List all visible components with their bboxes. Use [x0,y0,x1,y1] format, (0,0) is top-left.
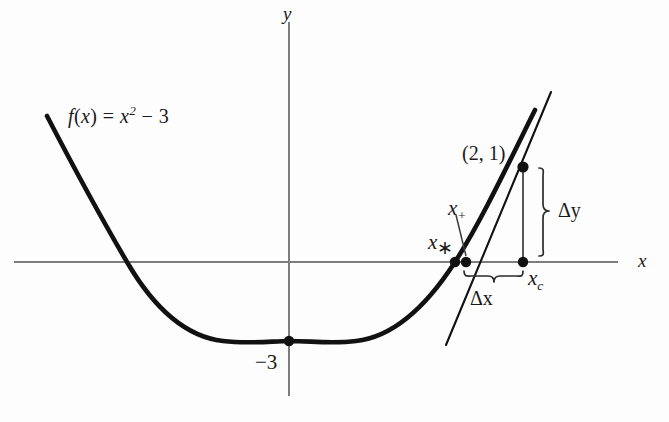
x-c-subscript: c [537,278,543,293]
delta-y-text: Δy [558,199,581,221]
x-plus-subscript: + [457,208,466,223]
newtons-method-figure: f(x) = x2 − 3 y x (2, 1) −3 Δy Δx x∗ x+ … [0,0,669,422]
delta-x-text: Δx [470,287,493,309]
function-paren-open: ( [74,105,81,127]
x-c-point [518,257,528,267]
function-equals: = [103,105,115,127]
x-star-label: x∗ [428,232,453,258]
vertex-value-label: −3 [255,352,277,373]
x-plus-point [461,257,471,267]
y-axis-label: y [283,4,291,23]
x-star-subscript: ∗ [437,237,453,258]
function-paren-close: ) [90,105,97,127]
x-star-point [450,257,460,267]
x-plus-label: x+ [448,198,466,223]
tangency-point-label: (2, 1) [462,143,505,163]
function-argument: x [81,105,90,127]
delta-y-label: Δy [558,200,581,220]
function-base: x [120,105,129,127]
tangency-point [517,161,528,172]
function-constant: − 3 [142,105,169,127]
x-axis-label: x [638,251,646,270]
x-c-base: x [528,266,537,290]
x-c-label: xc [528,268,543,293]
vertex-point [284,336,294,346]
function-exponent: 2 [129,103,136,118]
delta-y-brace [539,168,549,256]
x-star-base: x [428,230,437,254]
function-equation-label: f(x) = x2 − 3 [68,104,169,126]
delta-x-label: Δx [470,288,493,308]
x-plus-base: x [448,196,457,220]
